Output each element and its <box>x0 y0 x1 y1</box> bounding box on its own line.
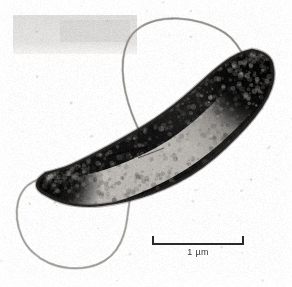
micrograph-image <box>0 0 292 287</box>
electron-micrograph-figure: 1 µm curved rod-shaped bacterial cell wi… <box>0 0 292 287</box>
